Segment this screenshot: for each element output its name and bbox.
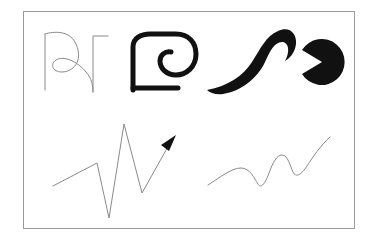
figure-canvas: [0, 0, 373, 241]
figure-border-outline: [24, 12, 355, 229]
shape-figure: [0, 0, 373, 241]
